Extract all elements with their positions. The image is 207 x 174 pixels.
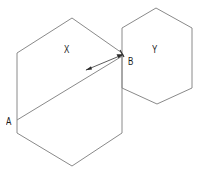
hexagon-left-label: X [64, 45, 69, 55]
figure-svg [0, 0, 207, 174]
figure-canvas: X Y A B [0, 0, 207, 174]
point-a-label: A [6, 117, 11, 127]
hexagon-right-label: Y [152, 45, 157, 55]
hexagon-left-shape [17, 18, 122, 166]
diagonal-line-ab [17, 55, 124, 120]
point-b-label: B [128, 57, 133, 67]
arrowhead-left-icon [86, 66, 93, 70]
